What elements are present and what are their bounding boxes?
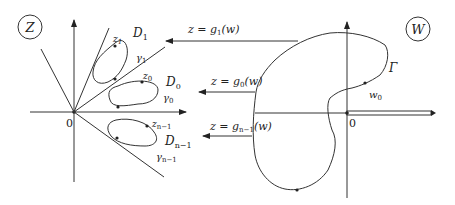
z1-point: [113, 44, 116, 47]
w0-label: w0: [369, 89, 382, 102]
w-plane-badge: W: [411, 22, 426, 37]
w0-point: [363, 81, 366, 84]
branch-cut-slit: [347, 111, 431, 115]
mapping-arrows: z = g1(w) z = g0(w) z = gn−1(w): [166, 23, 298, 136]
gamma-n1-direction-mark: [115, 136, 118, 139]
sector-ray-upper-left: [41, 49, 74, 112]
conformal-map-diagram: Z 0 z1 D1 γ1 z0 D0 γ0 zn−1 Dn−1 γn−1 z =…: [0, 0, 455, 205]
gamma-0-direction-mark: [116, 105, 119, 108]
w-plane: W 0 Γ w0: [253, 17, 436, 198]
w-origin-dot: [345, 111, 349, 115]
z-origin-label: 0: [66, 117, 73, 130]
map-g1-label: z = g1(w): [187, 23, 240, 37]
sector-ray-lower: [74, 112, 164, 177]
gamma-1-curve: [93, 41, 127, 84]
slit-arrow-icon: [431, 110, 436, 116]
zn1-label: zn−1: [151, 119, 172, 131]
gamma-direction-mark: [295, 188, 298, 191]
zn1-point: [145, 124, 148, 127]
gamma-n1-label: γn−1: [156, 151, 177, 164]
map-gn1-label: z = gn−1(w): [209, 120, 272, 134]
d1-label: D1: [132, 26, 148, 42]
dn1-label: Dn−1: [164, 134, 192, 150]
gamma-1-label: γ1: [136, 52, 146, 65]
w-origin-label: 0: [349, 117, 356, 130]
map-g0-label: z = g0(w): [210, 75, 263, 89]
z-plane: Z 0 z1 D1 γ1 z0 D0 γ0 zn−1 Dn−1 γn−1: [18, 15, 192, 182]
gamma-0-label: γ0: [163, 92, 173, 105]
gamma-0-curve: [109, 81, 158, 106]
d0-label: D0: [165, 75, 181, 91]
gamma-contour-label: Γ: [388, 61, 398, 75]
z-plane-badge: Z: [24, 20, 35, 35]
gamma-1-direction-mark: [113, 77, 116, 80]
